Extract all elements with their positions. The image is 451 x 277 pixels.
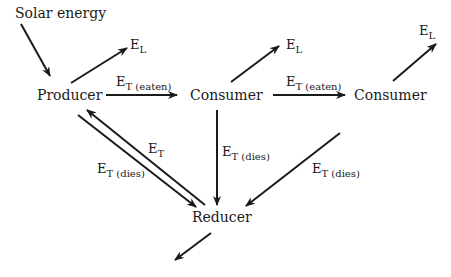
arrow-reducer-to-producer [87, 110, 205, 205]
arrow-consumer2-to-el [393, 44, 436, 81]
label-dies-consumer1: ET (dies) [222, 145, 270, 158]
diagram-canvas [0, 0, 451, 277]
arrow-producer-to-reducer [78, 115, 196, 207]
arrow-solar-to-producer [21, 24, 50, 76]
label-el-producer: EL [130, 38, 146, 51]
label-el-consumer2: EL [419, 24, 435, 37]
arrow-reducer-out [175, 233, 211, 260]
node-producer: Producer [37, 88, 102, 102]
label-dies-producer: ET (dies) [97, 162, 145, 175]
label-et-return: ET [148, 142, 164, 155]
label-eaten-1: ET (eaten) [116, 75, 171, 88]
node-solar-energy: Solar energy [15, 6, 106, 20]
node-reducer: Reducer [192, 210, 252, 224]
label-eaten-2: ET (eaten) [286, 75, 341, 88]
label-dies-consumer2: ET (dies) [312, 162, 360, 175]
node-consumer-1: Consumer [190, 88, 263, 102]
arrow-consumer1-to-el [231, 46, 279, 82]
node-consumer-2: Consumer [354, 88, 427, 102]
label-el-consumer1: EL [286, 38, 302, 51]
